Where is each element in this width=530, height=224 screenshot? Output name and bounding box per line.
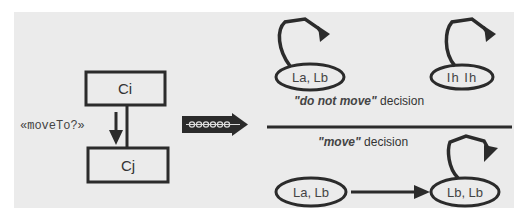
do-not-move-caption: "do not move" decision bbox=[294, 94, 424, 108]
move-caption: "move" decision bbox=[318, 135, 408, 149]
moveto-label: «moveTo?» bbox=[20, 119, 85, 133]
state-label: Lb, Lb bbox=[447, 185, 483, 200]
move-transition-arrow bbox=[351, 185, 430, 199]
diagram-canvas: Ci Cj «moveTo?» La, Lb Ih Ih bbox=[0, 0, 530, 224]
class-cj-label: Cj bbox=[121, 157, 135, 174]
arrow-head-icon bbox=[414, 185, 430, 199]
self-loop-arrow-icon bbox=[484, 26, 496, 42]
state-label: La, Lb bbox=[293, 185, 329, 200]
state-label: La, Lb bbox=[292, 70, 328, 85]
state-lb-lb: Lb, Lb bbox=[431, 136, 499, 206]
down-arrow-icon bbox=[109, 112, 123, 145]
state-la-lb-move: La, Lb bbox=[276, 178, 346, 206]
self-loop-arrow-icon bbox=[484, 145, 498, 162]
state-la-lb-stay: La, Lb bbox=[276, 19, 344, 90]
class-ci-label: Ci bbox=[118, 80, 132, 97]
transition-arrow-icon bbox=[182, 113, 248, 136]
state-ih-ih-stay: Ih Ih bbox=[431, 19, 496, 89]
class-cj: Cj bbox=[88, 148, 168, 182]
class-ci: Ci bbox=[86, 72, 165, 105]
state-label: Ih Ih bbox=[447, 70, 477, 85]
self-loop-arrow-icon bbox=[318, 26, 330, 42]
